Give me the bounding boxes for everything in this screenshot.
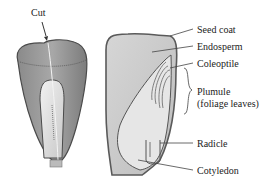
label-radicle: Radicle [197, 138, 228, 149]
whole-kernel [17, 22, 87, 167]
label-endosperm: Endosperm [197, 41, 243, 52]
label-seed-coat: Seed coat [197, 24, 236, 35]
label-plumule-sub: (foliage leaves) [197, 98, 259, 109]
cut-arrow-icon [42, 22, 46, 36]
label-cut: Cut [31, 7, 45, 18]
label-cotyledon: Cotyledon [197, 165, 239, 176]
sectioned-kernel [106, 34, 177, 175]
label-coleoptile: Coleoptile [197, 58, 239, 69]
label-plumule: Plumule [197, 86, 230, 97]
